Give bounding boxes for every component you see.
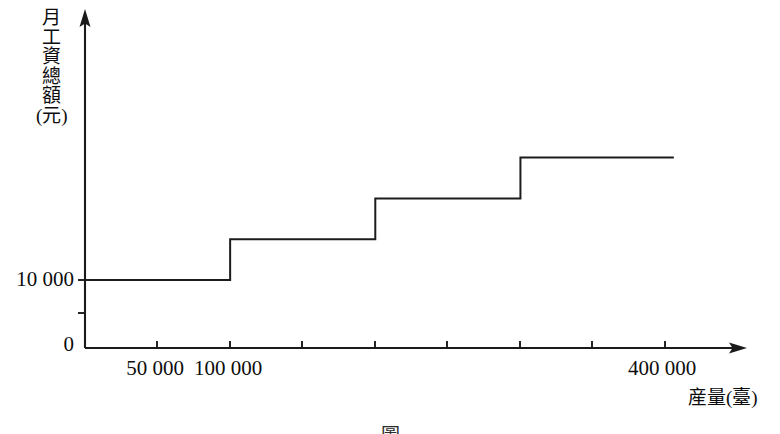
y-axis-title-char-1: 月 (36, 8, 66, 28)
y-axis-title: 月 工 資 總 額 (元) (36, 8, 66, 125)
step-series-monthly-wage (85, 158, 673, 280)
x-axis-title: 産量(臺) (688, 388, 758, 407)
y-axis-title-char-4: 總 (36, 67, 66, 87)
y-axis-title-char-6: (元) (36, 106, 66, 126)
y-axis-title-char-5: 額 (36, 86, 66, 106)
y-axis-title-char-2: 工 (36, 28, 66, 48)
y-tick-label-10000: 10 000 (10, 269, 74, 290)
x-axis (85, 341, 747, 354)
x-tick-label-100000: 100 000 (173, 358, 283, 379)
y-tick-label-0: 0 (10, 334, 74, 355)
y-axis (78, 9, 91, 348)
x-tick-label-400000: 400 000 (607, 358, 717, 379)
y-axis-title-char-3: 資 (36, 47, 66, 67)
figure-caption: 圖 (0, 420, 780, 434)
figure-container: 月 工 資 總 額 (元) 10 000 0 50 000 100 000 40… (0, 0, 780, 434)
